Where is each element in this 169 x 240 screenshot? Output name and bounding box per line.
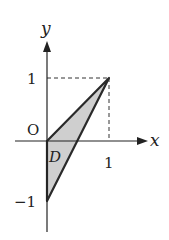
- y-tick-one: 1: [27, 70, 37, 88]
- coordinate-diagram: y x O 1 1 −1 D: [0, 0, 169, 240]
- origin-label: O: [27, 121, 39, 139]
- x-axis-arrow-icon: [137, 137, 148, 145]
- y-axis-arrow-icon: [43, 41, 51, 52]
- x-axis-label: x: [150, 130, 160, 150]
- y-tick-minus-one: −1: [14, 193, 36, 211]
- x-tick-one: 1: [104, 154, 114, 172]
- region-d: [47, 78, 109, 201]
- y-axis-label: y: [40, 18, 51, 38]
- region-label: D: [48, 148, 61, 166]
